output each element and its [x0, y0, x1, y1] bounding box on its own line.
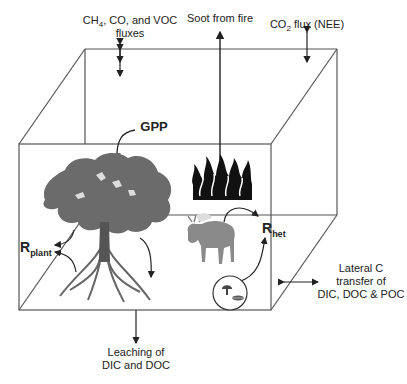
tree-icon	[43, 153, 171, 302]
decomposer-circle	[213, 276, 247, 310]
co2-flux-nee-label: CO2 flux (NEE)	[262, 18, 352, 31]
fire-icon	[192, 154, 252, 200]
soot-from-fire-label: Soot from fire	[175, 12, 265, 25]
gpp-label: GPP	[137, 120, 171, 133]
lateral-c-transfer-label: Lateral C transfer of DIC, DOC & POC	[316, 262, 406, 301]
leaf-litter-icon	[232, 296, 244, 301]
r-plant-label: Rplant	[20, 241, 60, 260]
litterfall-arrow	[140, 238, 151, 277]
r-het-label: Rhet	[262, 222, 298, 241]
moose-icon	[188, 213, 235, 264]
r-het-arrow-decomposer	[238, 238, 265, 282]
ch4-co-voc-flux-label: CH4, CO, and VOC fluxes	[75, 14, 185, 40]
ecosystem-diagram	[0, 0, 407, 384]
leaching-label: Leaching of DIC and DOC	[96, 346, 176, 372]
